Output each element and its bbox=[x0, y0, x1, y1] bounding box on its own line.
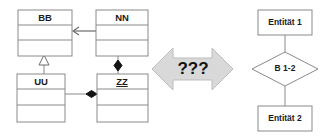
transform-arrow: ??? bbox=[152, 48, 233, 90]
transform-arrow-label: ??? bbox=[177, 59, 208, 78]
relation-nn-to-zz bbox=[114, 56, 122, 74]
er-entity-entitaet1[interactable]: Entität 1 bbox=[258, 10, 312, 35]
uml-class-uu[interactable]: UU bbox=[17, 74, 65, 122]
uml-class-zz[interactable]: ZZ bbox=[97, 74, 148, 122]
er-entity-entitaet2-label: Entität 2 bbox=[268, 113, 302, 123]
relation-uu-to-bb bbox=[39, 55, 49, 74]
uml-class-bb[interactable]: BB bbox=[18, 10, 72, 56]
diagram-svg: BB NN UU ZZ bbox=[0, 0, 321, 140]
uml-class-bb-name: BB bbox=[38, 12, 52, 23]
uml-class-nn[interactable]: NN bbox=[96, 10, 148, 56]
relation-uu-to-zz bbox=[65, 91, 97, 98]
uml-class-uu-name: UU bbox=[34, 76, 48, 87]
filled-diamond-icon bbox=[86, 91, 97, 98]
entity-relationship-diagram: Entität 1 B 1-2 Entität 2 bbox=[252, 10, 318, 131]
er-entity-entitaet2[interactable]: Entität 2 bbox=[258, 106, 312, 131]
uml-class-diagram: BB NN UU ZZ bbox=[17, 10, 148, 122]
diagram-canvas: BB NN UU ZZ bbox=[0, 0, 321, 140]
er-entity-entitaet1-label: Entität 1 bbox=[268, 17, 302, 27]
er-relationship-b12-label: B 1-2 bbox=[275, 63, 296, 73]
uml-class-nn-name: NN bbox=[115, 12, 129, 23]
relation-nn-to-bb bbox=[73, 27, 96, 35]
uml-class-zz-name: ZZ bbox=[116, 76, 128, 87]
filled-diamond-icon bbox=[114, 60, 122, 71]
er-relationship-b12[interactable]: B 1-2 bbox=[252, 52, 318, 86]
